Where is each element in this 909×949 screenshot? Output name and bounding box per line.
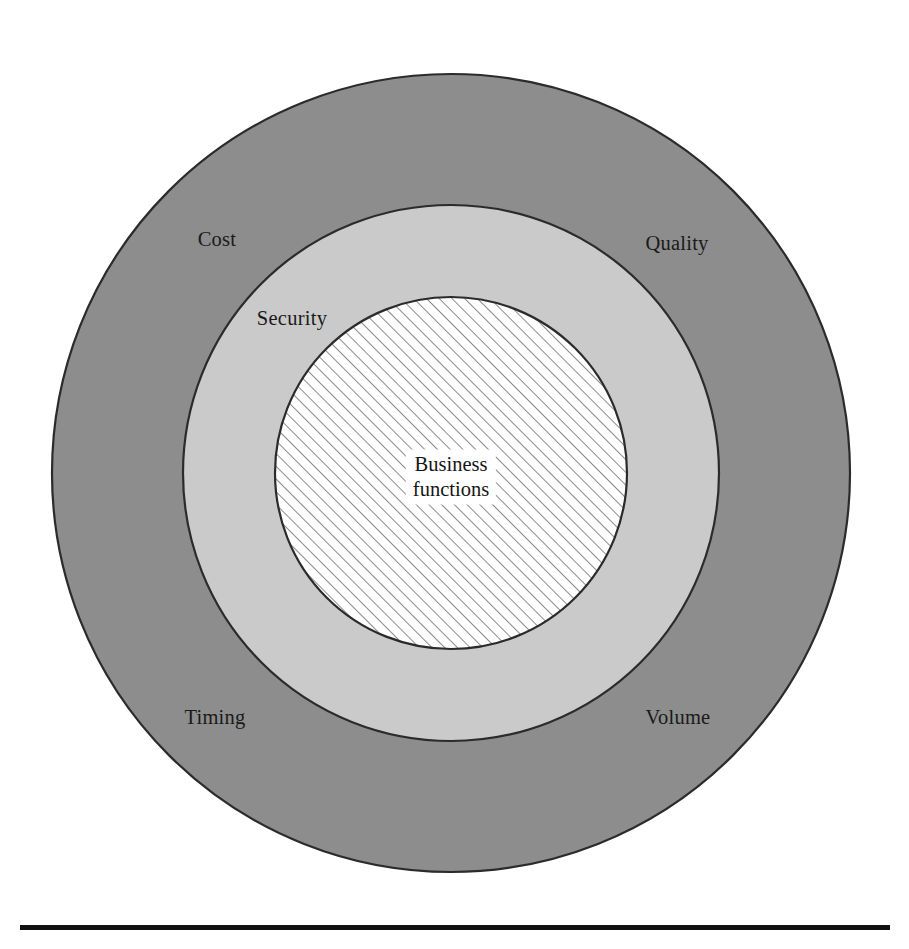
concentric-rings-diagram <box>0 0 909 949</box>
inner-core-circle <box>275 297 627 649</box>
bottom-horizontal-rule <box>20 925 890 930</box>
figure-root: Cost Quality Security Timing Volume Busi… <box>0 0 909 949</box>
